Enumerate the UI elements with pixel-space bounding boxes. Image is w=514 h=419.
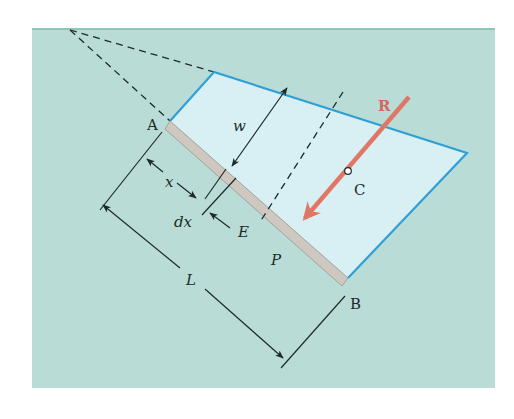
label-dx: dx <box>174 213 193 231</box>
label-c: C <box>354 181 365 199</box>
label-a: A <box>146 116 158 134</box>
label-l: L <box>185 271 196 289</box>
label-b: B <box>350 295 361 313</box>
label-x: x <box>165 173 174 191</box>
label-w: w <box>233 117 246 135</box>
gate-diagram: A B C E P R w x dx L <box>0 0 514 419</box>
centroid-marker <box>345 168 352 175</box>
label-e: E <box>237 223 249 241</box>
label-resultant: R <box>378 97 391 115</box>
label-p: P <box>270 251 282 269</box>
